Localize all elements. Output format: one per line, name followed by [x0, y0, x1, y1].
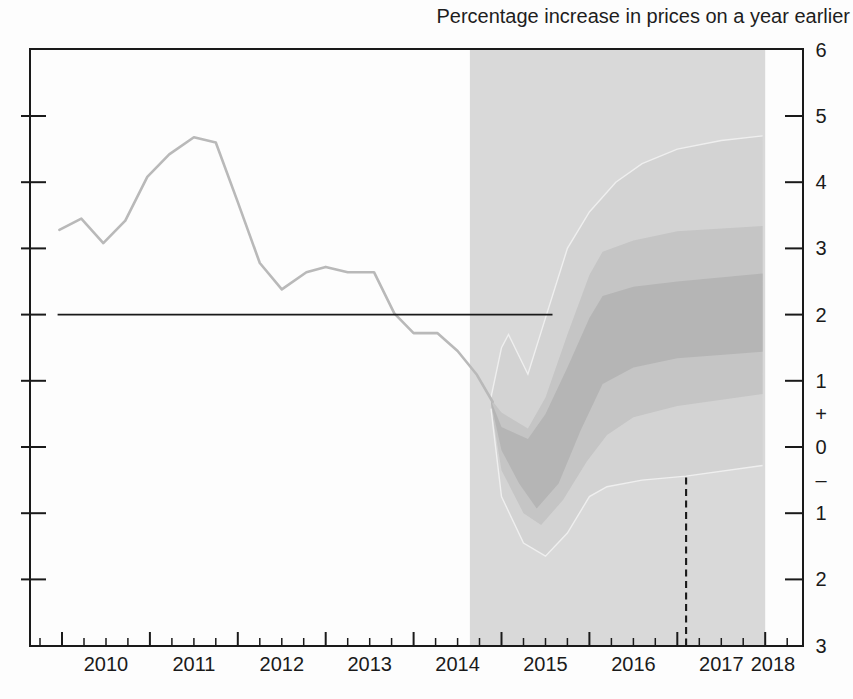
- x-tick-label-2017: 2017: [699, 653, 744, 675]
- x-tick-label-2013: 2013: [347, 653, 392, 675]
- history-line: [59, 137, 492, 402]
- x-tick-label-2012: 2012: [260, 653, 305, 675]
- y-axis-label-7-0: 0: [815, 436, 826, 458]
- x-tick-label-2010: 2010: [84, 653, 129, 675]
- y-axis-label-10-2: 2: [815, 568, 826, 590]
- chart-title: Percentage increase in prices on a year …: [436, 5, 850, 28]
- y-axis-label-5-1: 1: [815, 370, 826, 392]
- y-axis-label-1-5: 5: [815, 105, 826, 127]
- x-tick-label-2018: 2018: [751, 653, 796, 675]
- y-axis-label-9-1: 1: [815, 502, 826, 524]
- inflation-fan-chart: 2010201120122013201420152016201720186543…: [0, 0, 853, 699]
- y-axis-label-2-4: 4: [815, 171, 826, 193]
- x-tick-label-2011: 2011: [172, 653, 215, 675]
- y-axis-label-0-6: 6: [815, 39, 826, 61]
- y-axis-label-8-–: –: [815, 469, 827, 491]
- x-tick-label-2014: 2014: [435, 653, 480, 675]
- y-axis-label-3-3: 3: [815, 237, 826, 259]
- x-tick-label-2015: 2015: [523, 653, 568, 675]
- chart-canvas: 2010201120122013201420152016201720186543…: [0, 0, 853, 699]
- y-axis-label-4-2: 2: [815, 304, 826, 326]
- x-tick-label-2016: 2016: [611, 653, 656, 675]
- y-axis-label-6-+: +: [815, 403, 827, 425]
- y-axis-label-11-3: 3: [815, 635, 826, 657]
